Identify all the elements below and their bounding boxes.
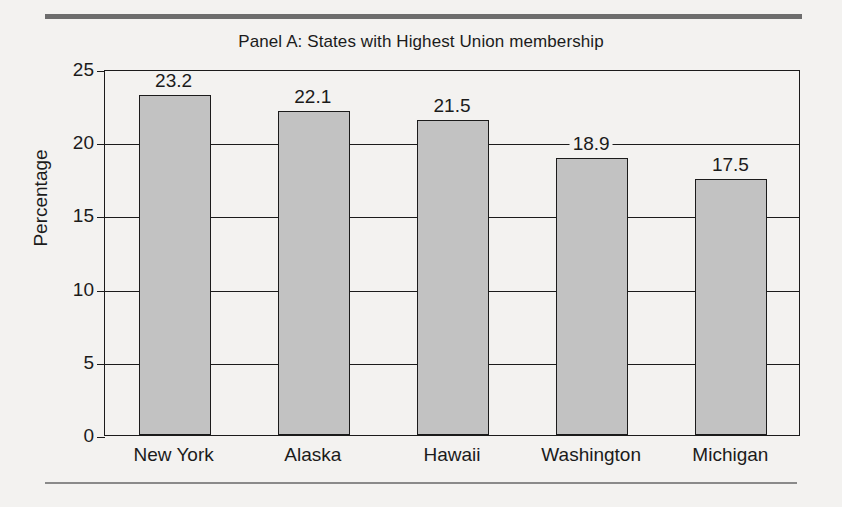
y-axis-tick-label: 25: [73, 59, 94, 81]
bar: [139, 95, 211, 435]
y-axis-tick: [97, 144, 105, 145]
x-axis-tick-label: Michigan: [692, 444, 768, 466]
bar: [695, 179, 767, 435]
y-axis-tick-labels: 0510152025: [52, 70, 94, 436]
bar: [556, 158, 628, 435]
chart-title: Panel A: States with Highest Union membe…: [0, 32, 842, 52]
bar-value-label: 22.1: [294, 86, 331, 108]
y-axis-tick: [97, 291, 105, 292]
y-axis-tick-label: 15: [73, 205, 94, 227]
y-axis-tick: [97, 217, 105, 218]
y-axis-tick: [97, 364, 105, 365]
plot-area: [104, 70, 800, 436]
x-axis-tick-label: New York: [133, 444, 213, 466]
x-axis-tick-label: Alaska: [284, 444, 341, 466]
y-axis-tick: [97, 437, 105, 438]
y-axis-tick: [97, 71, 105, 72]
y-axis-tick-label: 20: [73, 132, 94, 154]
bar: [417, 120, 489, 435]
bar-value-label: 23.2: [155, 70, 192, 92]
y-axis-label: Percentage: [30, 128, 52, 268]
bar-value-label: 18.9: [570, 133, 613, 155]
bar: [278, 111, 350, 435]
bar-value-label: 21.5: [434, 95, 471, 117]
x-axis-tick-label: Washington: [541, 444, 641, 466]
bar-value-label: 17.5: [712, 154, 749, 176]
chart-figure: Panel A: States with Highest Union membe…: [0, 0, 842, 507]
bottom-horizontal-rule: [45, 482, 797, 484]
x-axis-tick-label: Hawaii: [423, 444, 480, 466]
y-axis-tick-label: 10: [73, 279, 94, 301]
y-axis-tick-label: 0: [83, 425, 94, 447]
y-axis-tick-label: 5: [83, 352, 94, 374]
